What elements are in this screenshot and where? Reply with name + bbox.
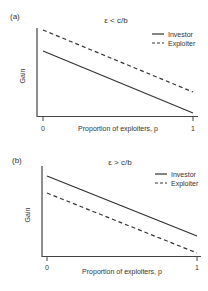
investor-line xyxy=(43,51,193,113)
panel-b-label: (b) xyxy=(12,156,22,165)
panel-a-title: ε < c/b xyxy=(104,16,128,25)
legend-exploiter-label: Exploiter xyxy=(171,180,199,188)
legend-investor-label: Investor xyxy=(171,171,197,178)
legend-investor-label: Investor xyxy=(168,31,194,38)
figure: (a) ε < c/b 0 1 Proportion of exploiters… xyxy=(0,0,208,291)
panel-a-label: (a) xyxy=(10,12,20,21)
y-axis-label: Gain xyxy=(24,208,31,223)
tick-label-1: 1 xyxy=(191,125,195,132)
tick-label-0: 0 xyxy=(45,264,49,271)
legend-exploiter-label: Exploiter xyxy=(168,40,196,48)
panel-b-title: ε > c/b xyxy=(108,158,132,167)
tick-label-0: 0 xyxy=(41,125,45,132)
y-axis-label: Gain xyxy=(19,69,26,84)
x-axis-label: Proportion of exploiters, p xyxy=(78,125,158,133)
x-axis-label: Proportion of exploiters, p xyxy=(82,268,162,276)
panel-a: (a) ε < c/b 0 1 Proportion of exploiters… xyxy=(10,12,198,133)
panel-b: (b) ε > c/b 0 1 Proportion of exploiters… xyxy=(12,156,201,276)
exploiter-line xyxy=(47,193,197,253)
tick-label-1: 1 xyxy=(195,264,199,271)
